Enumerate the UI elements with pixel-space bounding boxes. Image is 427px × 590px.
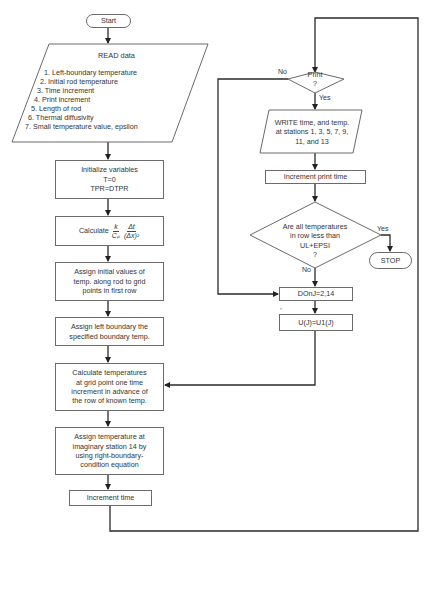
increment-print-time-box: Increment print time	[265, 170, 366, 184]
fraction-k-cp: k Cₚ	[112, 223, 120, 240]
print-yes-label: Yes	[319, 94, 330, 101]
write-text: WRITE time, and temp. at stations 1, 3, …	[262, 118, 362, 146]
all-temps-yes-label: Yes	[377, 225, 388, 232]
increment-time-box: Increment time	[69, 490, 152, 506]
read-data-item: 6. Thermal diffusivity	[28, 113, 94, 122]
read-data-item: 7. Small temperature value, epsilon	[25, 122, 138, 131]
calculate-coefficient-box: Calculate k Cₚ Δt (Δx)²	[55, 216, 164, 246]
read-data-item: 2. Initial rod temperature	[40, 77, 118, 86]
read-data-title: READ data	[98, 51, 135, 60]
calculate-temperatures-box: Calculate temperatures at grid point one…	[55, 363, 164, 411]
start-label: Start	[101, 16, 116, 25]
assign-station-14-box: Assign temperature at imaginary station …	[55, 427, 164, 475]
stray-mark: n	[280, 306, 282, 311]
all-temps-no-label: No	[302, 266, 311, 273]
arrow-decision-yes-stop	[381, 235, 390, 251]
arrow-back-to-calctemps	[165, 331, 315, 385]
assign-left-boundary-box: Assign left boundary the specified bound…	[55, 317, 164, 346]
read-data-item: 1. Left-boundary temperature	[44, 68, 137, 77]
stop-terminal: STOP	[369, 252, 412, 269]
assign-u-box: U(J)=U1(J)	[279, 314, 353, 331]
initialize-variables-box: Initialize variables T=0 TPR=DTPR	[55, 160, 164, 199]
fraction-dt-dx2: Δt (Δx)²	[124, 223, 139, 240]
all-temps-decision-text: Are all temperatures in row less than UL…	[265, 222, 365, 259]
start-terminal: Start	[86, 14, 131, 28]
print-decision-text: Print ?	[296, 71, 334, 88]
print-no-label: No	[278, 68, 287, 75]
read-data-item: 3. Time increment	[37, 86, 94, 95]
assign-initial-values-box: Assign initial values of temp. along rod…	[55, 262, 164, 301]
do-loop-box: DOnJ=2,14	[279, 287, 353, 301]
read-data-item: 5. Length of rod	[31, 104, 81, 113]
read-data-item: 4. Print increment	[34, 95, 90, 104]
